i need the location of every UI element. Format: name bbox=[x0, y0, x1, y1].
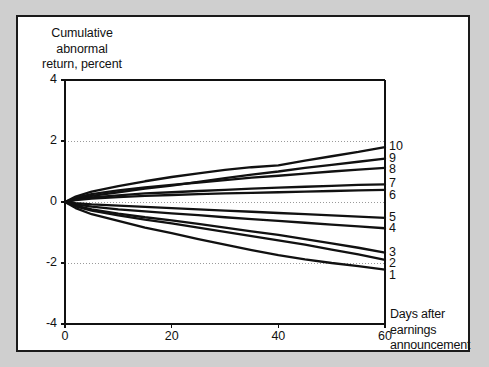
tick-marks bbox=[61, 80, 385, 328]
series-label-4: 4 bbox=[389, 222, 396, 235]
y-tick-label: -2 bbox=[29, 255, 57, 269]
y-tick-label: 4 bbox=[29, 72, 57, 86]
x-axis-title: Days after earnings announcement bbox=[390, 307, 486, 354]
y-tick-label: 0 bbox=[29, 194, 57, 208]
series-label-6: 6 bbox=[389, 189, 396, 202]
y-axis-title-line-3: return, percent bbox=[26, 57, 138, 73]
series-lines bbox=[65, 147, 385, 270]
series-label-1: 1 bbox=[389, 269, 396, 282]
x-tick-label: 0 bbox=[50, 329, 80, 343]
y-tick-label: -4 bbox=[29, 316, 57, 330]
y-axis-title-line-2: abnormal bbox=[26, 42, 138, 58]
x-axis-title-line-1: Days after bbox=[390, 307, 486, 323]
series-label-8: 8 bbox=[389, 163, 396, 176]
x-tick-label: 60 bbox=[370, 329, 400, 343]
x-axis-title-line-3: announcement bbox=[390, 338, 486, 354]
y-tick-label: 2 bbox=[29, 133, 57, 147]
y-axis-title: Cumulative abnormal return, percent bbox=[26, 26, 138, 73]
x-tick-label: 40 bbox=[263, 329, 293, 343]
x-axis-title-line-2: earnings bbox=[390, 323, 486, 339]
y-axis-title-line-1: Cumulative bbox=[26, 26, 138, 42]
x-tick-label: 20 bbox=[157, 329, 187, 343]
